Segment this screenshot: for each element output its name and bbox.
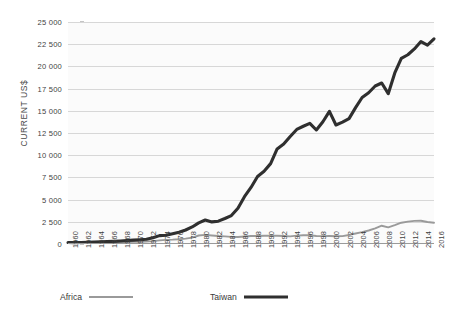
- x-tick-label: 2004: [359, 231, 368, 248]
- series-layer: [68, 22, 434, 244]
- x-tick-label: 1990: [267, 231, 276, 248]
- plot-area: [68, 22, 434, 244]
- y-tick-label: 20 000: [16, 62, 62, 71]
- x-tick-label: 1982: [215, 231, 224, 248]
- series-line-taiwan: [68, 39, 434, 243]
- x-tick-label: 2012: [411, 231, 420, 248]
- x-tick-label: 1984: [228, 231, 237, 248]
- legend-label: Taiwan: [210, 292, 237, 302]
- x-tick-label: 2006: [372, 231, 381, 248]
- x-tick-label: 1972: [149, 231, 158, 248]
- x-tick-label: 1998: [319, 231, 328, 248]
- x-tick-label: 2016: [437, 231, 446, 248]
- legend-swatch-africa: [89, 293, 133, 301]
- x-axis-tick-labels: 1960196219641966196819701972197419761978…: [68, 246, 434, 284]
- y-tick-label: 25 000: [16, 18, 62, 27]
- x-tick-label: 1980: [202, 231, 211, 248]
- y-tick-label: 0: [16, 240, 62, 249]
- x-tick-label: 1978: [189, 231, 198, 248]
- y-tick-label: 22 500: [16, 40, 62, 49]
- y-tick-label: 5 000: [16, 195, 62, 204]
- x-tick-label: 1996: [306, 231, 315, 248]
- line-chart: CURRENT US$ 25 00022 50020 00017 50015 0…: [0, 0, 451, 326]
- x-tick-label: 1964: [97, 231, 106, 248]
- x-tick-label: 2002: [346, 231, 355, 248]
- y-tick-label: 7 500: [16, 173, 62, 182]
- x-tick-label: 1970: [136, 231, 145, 248]
- x-tick-label: 2014: [424, 231, 433, 248]
- x-tick-label: 1976: [176, 231, 185, 248]
- y-tick-label: 2 500: [16, 217, 62, 226]
- y-axis-tick-labels: 25 00022 50020 00017 50015 00012 50010 0…: [16, 14, 62, 250]
- y-tick-label: 15 000: [16, 106, 62, 115]
- chart-legend: AfricaTaiwan: [60, 292, 400, 314]
- x-tick-label: 1974: [163, 231, 172, 248]
- x-tick-label: 1962: [84, 231, 93, 248]
- x-tick-label: 1968: [123, 231, 132, 248]
- x-tick-label: 1992: [280, 231, 289, 248]
- x-tick-label: 1960: [71, 231, 80, 248]
- legend-item-africa[interactable]: Africa: [60, 292, 133, 302]
- x-tick-label: 2010: [398, 231, 407, 248]
- x-tick-label: 2000: [332, 231, 341, 248]
- x-tick-label: 2008: [385, 231, 394, 248]
- y-tick-label: 10 000: [16, 151, 62, 160]
- legend-item-taiwan[interactable]: Taiwan: [210, 292, 288, 302]
- x-tick-label: 1988: [254, 231, 263, 248]
- y-tick-label: 12 500: [16, 129, 62, 138]
- x-tick-label: 1966: [110, 231, 119, 248]
- legend-label: Africa: [60, 292, 82, 302]
- y-tick-label: 17 500: [16, 84, 62, 93]
- x-tick-label: 1994: [293, 231, 302, 248]
- x-tick-label: 1986: [241, 231, 250, 248]
- legend-swatch-taiwan: [244, 293, 288, 301]
